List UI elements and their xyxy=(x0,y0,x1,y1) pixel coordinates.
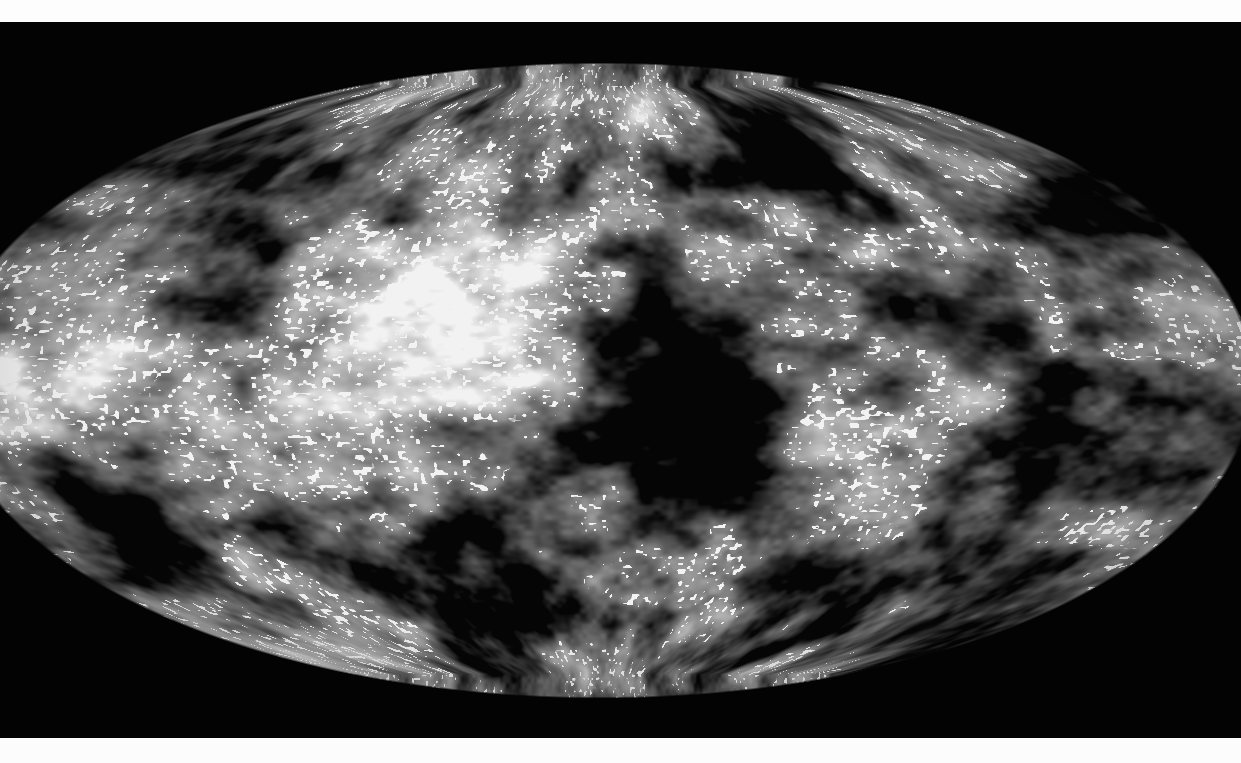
sky-background xyxy=(0,22,1241,738)
cmb-sky-canvas xyxy=(0,22,1241,738)
cmb-figure xyxy=(0,0,1241,763)
bottom-white-band xyxy=(0,738,1241,763)
top-white-band xyxy=(0,0,1241,22)
